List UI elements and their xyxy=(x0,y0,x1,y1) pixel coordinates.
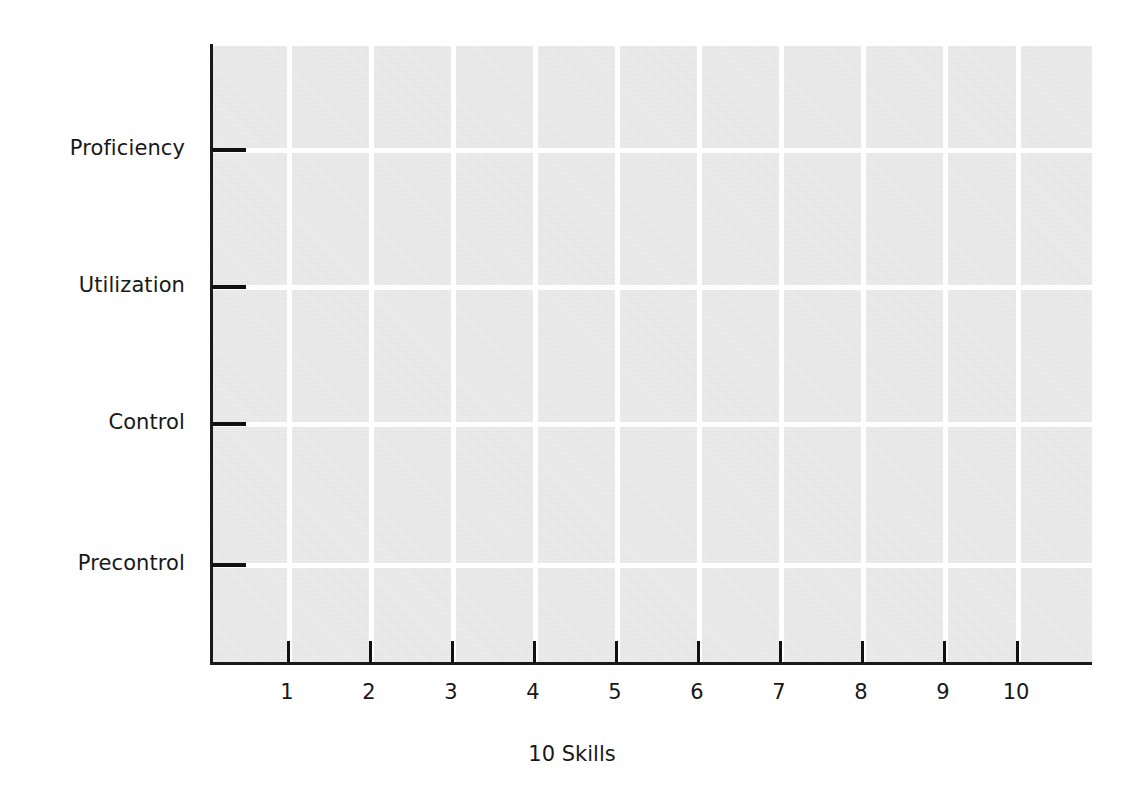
y-axis-label-utilization: Utilization xyxy=(79,275,185,296)
horizontal-gridline-1 xyxy=(212,148,1092,153)
plot-texture xyxy=(212,46,1092,663)
horizontal-gridline-3 xyxy=(212,422,1092,427)
x-axis-title: 10 Skills xyxy=(0,744,1144,765)
y-axis-label-precontrol: Precontrol xyxy=(78,553,185,574)
x-axis-label-7: 7 xyxy=(749,682,809,703)
x-axis-tick-mark-4 xyxy=(533,641,536,663)
x-axis-tick-mark-8 xyxy=(861,641,864,663)
x-axis-tick-mark-10 xyxy=(1016,641,1019,663)
x-axis-tick-mark-1 xyxy=(287,641,290,663)
horizontal-gridline-2 xyxy=(212,285,1092,290)
plot-area xyxy=(212,46,1092,663)
horizontal-gridline-4 xyxy=(212,563,1092,568)
x-axis-label-4: 4 xyxy=(503,682,563,703)
x-axis-tick-mark-5 xyxy=(615,641,618,663)
vertical-gridline-5 xyxy=(615,46,620,663)
vertical-gridline-8 xyxy=(861,46,866,663)
vertical-gridline-7 xyxy=(779,46,784,663)
y-axis-label-control: Control xyxy=(108,412,185,433)
y-axis-tick-mark-1 xyxy=(212,148,246,152)
vertical-gridline-4 xyxy=(533,46,538,663)
x-axis-label-3: 3 xyxy=(421,682,481,703)
y-axis-tick-mark-3 xyxy=(212,422,246,426)
x-axis-tick-mark-2 xyxy=(369,641,372,663)
x-axis-label-2: 2 xyxy=(339,682,399,703)
vertical-gridline-6 xyxy=(697,46,702,663)
y-axis-label-proficiency: Proficiency xyxy=(70,138,185,159)
chart-figure: ProficiencyUtilizationControlPrecontrol … xyxy=(0,0,1144,799)
vertical-gridline-1 xyxy=(287,46,292,663)
x-axis-label-10: 10 xyxy=(986,682,1046,703)
vertical-gridline-10 xyxy=(1016,46,1021,663)
y-axis-tick-mark-4 xyxy=(212,563,246,567)
x-axis-label-8: 8 xyxy=(831,682,891,703)
x-axis-tick-mark-9 xyxy=(943,641,946,663)
x-axis-label-5: 5 xyxy=(585,682,645,703)
x-axis-tick-mark-7 xyxy=(779,641,782,663)
x-axis-label-9: 9 xyxy=(913,682,973,703)
vertical-gridline-2 xyxy=(369,46,374,663)
x-axis-tick-mark-6 xyxy=(697,641,700,663)
vertical-gridline-3 xyxy=(451,46,456,663)
y-axis-line xyxy=(210,44,213,665)
x-axis-tick-mark-3 xyxy=(451,641,454,663)
vertical-gridline-9 xyxy=(943,46,948,663)
x-axis-label-1: 1 xyxy=(257,682,317,703)
x-axis-line xyxy=(210,662,1092,665)
x-axis-label-6: 6 xyxy=(667,682,727,703)
y-axis-tick-mark-2 xyxy=(212,285,246,289)
